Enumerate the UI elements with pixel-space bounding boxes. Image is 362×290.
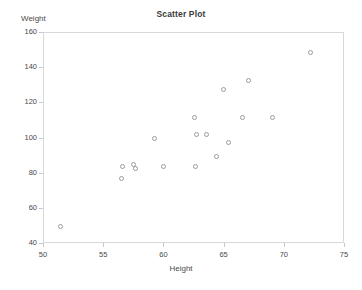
x-tick-mark <box>163 243 164 247</box>
page-title: Scatter Plot <box>0 9 362 19</box>
data-points-layer <box>44 33 343 242</box>
data-point <box>270 115 275 120</box>
y-tick-mark <box>39 208 43 209</box>
data-point <box>226 140 231 145</box>
data-point <box>120 164 125 169</box>
y-axis-label: Weight <box>21 14 46 23</box>
data-point <box>152 136 157 141</box>
x-tick-label: 60 <box>153 250 173 259</box>
x-axis-label: Height <box>0 264 362 273</box>
x-tick-mark <box>224 243 225 247</box>
data-point <box>204 132 209 137</box>
data-point <box>221 87 226 92</box>
data-point <box>193 164 198 169</box>
plot-area <box>43 32 344 243</box>
y-tick-mark <box>39 32 43 33</box>
x-tick-label: 55 <box>93 250 113 259</box>
x-tick-label: 75 <box>334 250 354 259</box>
x-tick-label: 70 <box>274 250 294 259</box>
y-tick-mark <box>39 138 43 139</box>
x-tick-mark <box>43 243 44 247</box>
data-point <box>58 224 63 229</box>
x-tick-mark <box>284 243 285 247</box>
data-point <box>192 115 197 120</box>
x-tick-label: 50 <box>33 250 53 259</box>
data-point <box>214 154 219 159</box>
x-tick-mark <box>103 243 104 247</box>
data-point <box>246 78 251 83</box>
data-point <box>308 50 313 55</box>
x-tick-mark <box>344 243 345 247</box>
y-tick-label: 120 <box>24 97 37 106</box>
scatter-plot-figure: Scatter Plot Weight 406080100120140160 5… <box>0 0 362 290</box>
y-tick-mark <box>39 102 43 103</box>
y-tick-label: 140 <box>24 62 37 71</box>
y-tick-mark <box>39 67 43 68</box>
data-point <box>119 176 124 181</box>
y-tick-mark <box>39 173 43 174</box>
y-tick-label: 100 <box>24 133 37 142</box>
y-tick-label: 80 <box>29 168 37 177</box>
data-point <box>161 164 166 169</box>
y-tick-label: 60 <box>29 203 37 212</box>
y-tick-label: 160 <box>24 27 37 36</box>
data-point <box>194 132 199 137</box>
data-point <box>133 166 138 171</box>
data-point <box>240 115 245 120</box>
x-tick-label: 65 <box>214 250 234 259</box>
y-tick-label: 40 <box>29 238 37 247</box>
